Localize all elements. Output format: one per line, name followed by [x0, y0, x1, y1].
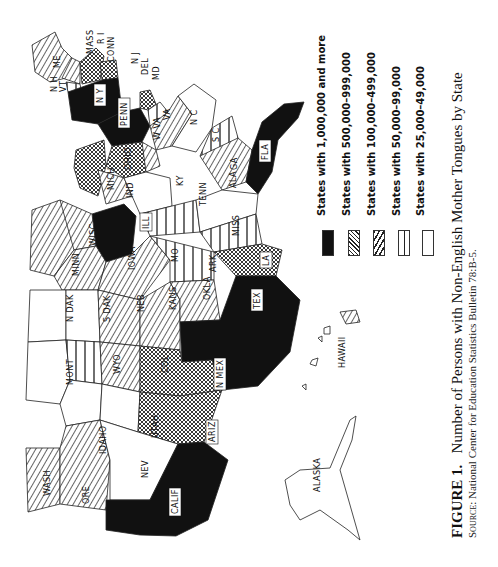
swatch-blank — [422, 230, 434, 256]
label-ala: ALA — [229, 171, 238, 188]
legend-label-3: States with 100,000–499,000 — [366, 52, 377, 216]
state-fla — [246, 102, 304, 194]
state-conn — [100, 60, 118, 80]
label-nj: N J — [131, 52, 140, 64]
swatch-vertical-lines — [398, 230, 410, 256]
label-tenn: TENN — [199, 182, 208, 207]
label-iowa: IOWA — [128, 246, 137, 270]
label-ore: ORE — [82, 486, 91, 504]
label-ill: ILL — [142, 216, 151, 229]
label-ohio: OHIO — [124, 147, 133, 170]
label-mich: MICH — [107, 167, 116, 190]
label-wash: WASH — [43, 470, 52, 496]
figure-label: FIGURE 1. — [449, 465, 465, 538]
label-idaho: IDAHO — [99, 425, 108, 454]
label-calif: CALIF — [171, 489, 180, 514]
label-del: DEL — [141, 58, 150, 75]
label-vt: VT — [59, 81, 68, 92]
figure-title: Number of Persons with Non-English Mothe… — [449, 72, 465, 453]
state-mont — [26, 340, 70, 404]
figure-caption: FIGURE 1. Number of Persons with Non-Eng… — [449, 72, 478, 538]
swatch-diagonal-hatch — [373, 230, 385, 256]
label-ky: KY — [176, 175, 185, 186]
label-wva: W VA — [153, 117, 162, 140]
label-okla: OKLA — [203, 276, 212, 300]
label-sc: S C — [212, 127, 221, 142]
label-ri: R I — [97, 32, 106, 44]
label-ark: ARK — [209, 254, 218, 272]
label-sdak: S DAK — [103, 295, 112, 322]
label-minn: MINN — [72, 253, 81, 276]
label-ny: N Y — [96, 88, 105, 103]
label-nev: NEV — [141, 460, 150, 478]
label-fla: FLA — [261, 144, 270, 160]
swatch-crosshatch — [348, 230, 360, 256]
label-conn: CONN — [107, 36, 116, 62]
legend-label-2: States with 500,000–999,000 — [341, 52, 352, 216]
label-neb: NEB — [137, 294, 146, 312]
label-nc: N C — [190, 109, 199, 125]
label-utah: UTAH — [151, 414, 160, 438]
legend-label-5: States with 25,000–49,000 — [415, 66, 426, 216]
label-ariz: ARIZ — [208, 421, 217, 442]
label-wisc: WISC — [89, 223, 98, 246]
label-kans: KANS — [169, 286, 178, 310]
label-col: COL — [161, 355, 170, 373]
label-alaska: ALASKA — [313, 458, 322, 492]
label-penn: PENN — [120, 102, 129, 126]
label-tex: TEX — [253, 292, 262, 310]
legend-label-1: States with 1,000,000 and more — [316, 35, 327, 216]
state-mich — [74, 140, 106, 196]
figure-source-line: Source: National Center for Education St… — [466, 72, 478, 538]
label-mo: MO — [171, 248, 180, 262]
label-nh: N H — [50, 76, 59, 92]
swatch-solid-black — [322, 230, 334, 256]
label-nmex: N MEX — [216, 360, 225, 388]
label-ind: IND — [126, 182, 135, 198]
map-states — [26, 32, 360, 540]
source-text: National Center for Education Statistics… — [466, 249, 478, 499]
label-ga: GA — [230, 157, 239, 170]
legend-label-4: States with 50,000–99,000 — [391, 66, 402, 216]
label-me: ME — [53, 55, 62, 68]
label-miss: MISS — [232, 215, 241, 236]
label-va: VA — [163, 109, 172, 120]
label-la: LA — [262, 255, 271, 266]
state-ndak — [28, 290, 66, 342]
label-wyo: WYO — [113, 354, 122, 374]
label-md: MD — [152, 66, 161, 80]
source-label: Source: — [466, 502, 478, 538]
figure-title-line: FIGURE 1. Number of Persons with Non-Eng… — [449, 72, 466, 538]
label-mass: MASS — [86, 29, 95, 54]
label-mont: MONT — [66, 359, 75, 385]
label-ndak: N DAK — [66, 294, 75, 322]
